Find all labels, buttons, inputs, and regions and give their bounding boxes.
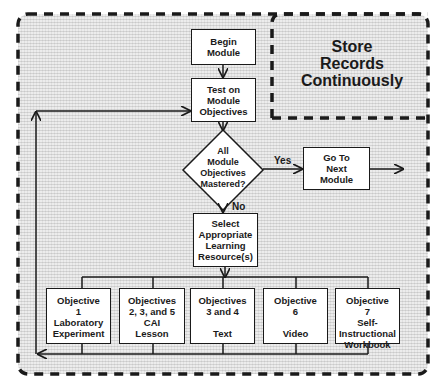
objectives-3-4-box: Objectives 3 and 4 Text (190, 288, 255, 344)
objective-1-box: Objective 1 Laboratory Experiment (46, 288, 111, 344)
no-edge-label: No (232, 201, 245, 212)
objective-6-box: Objective 6 Video (263, 288, 328, 344)
store-records-label: Store Records Continuously (284, 38, 420, 89)
yes-edge-label: Yes (274, 155, 291, 166)
test-objectives-box: Test on Module Objectives (191, 78, 256, 122)
mastery-decision-label: All Module Objectives Mastered? (193, 146, 253, 190)
select-resources-box: Select Appropriate Learning Resource(s) (193, 213, 258, 267)
flowchart-diagram: Store Records Continuously Begin Module … (0, 0, 440, 388)
objective-7-box: Objective 7 Self- Instructional Workbook (335, 288, 400, 344)
begin-module-box: Begin Module (191, 29, 256, 65)
go-to-next-module-box: Go To Next Module (303, 147, 370, 190)
objectives-2-3-5-box: Objectives 2, 3, and 5 CAI Lesson (119, 288, 185, 344)
